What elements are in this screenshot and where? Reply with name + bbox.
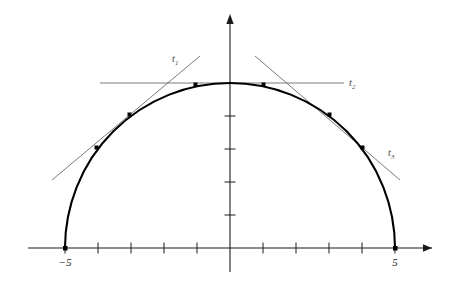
figure-root: −5 5 t1 t2 t3 bbox=[0, 0, 461, 293]
semicircle-tangent-plot: −5 5 t1 t2 t3 bbox=[0, 0, 461, 293]
tangent-label-t1: t1 bbox=[172, 53, 178, 67]
x-tick-label-5: 5 bbox=[392, 256, 398, 268]
marker-point bbox=[361, 146, 365, 150]
marker-point bbox=[128, 113, 132, 117]
tangent-label-t1-sub: 1 bbox=[175, 59, 179, 67]
endpoint-marker-left bbox=[63, 246, 68, 251]
endpoint-marker-right bbox=[393, 246, 398, 251]
tangent-label-t3: t3 bbox=[388, 147, 395, 161]
x-axis-arrowhead bbox=[423, 244, 432, 251]
tangent-label-t2: t2 bbox=[349, 77, 356, 91]
y-axis-group bbox=[226, 14, 233, 272]
tangent-line-t1 bbox=[52, 56, 200, 180]
y-axis-arrowhead bbox=[226, 14, 233, 24]
tangent-label-t2-sub: 2 bbox=[352, 83, 356, 91]
marker-point bbox=[262, 83, 266, 87]
marker-point bbox=[194, 83, 198, 87]
marker-point bbox=[328, 113, 332, 117]
tangent-line-t3 bbox=[255, 56, 400, 180]
x-tick-label--5: −5 bbox=[59, 256, 72, 268]
marker-point bbox=[95, 146, 99, 150]
tangent-label-t3-sub: 3 bbox=[390, 153, 395, 161]
